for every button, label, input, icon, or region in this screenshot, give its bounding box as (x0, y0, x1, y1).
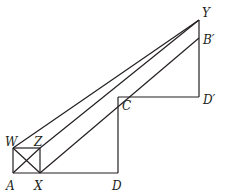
line-z-y (40, 20, 199, 148)
line-w-y (13, 20, 199, 148)
label-d-prime: D′ (202, 93, 216, 107)
label-d: D (111, 179, 122, 193)
label-z: Z (33, 135, 43, 149)
label-x: X (33, 179, 43, 193)
label-a: A (5, 179, 15, 193)
geometry-diagram: A X D W Z C D′ Y B′ (0, 0, 226, 196)
label-c: C (122, 99, 131, 113)
label-b-prime: B′ (202, 33, 215, 47)
label-w: W (5, 135, 19, 149)
line-x-b-prime (40, 38, 199, 173)
label-y: Y (202, 6, 211, 20)
